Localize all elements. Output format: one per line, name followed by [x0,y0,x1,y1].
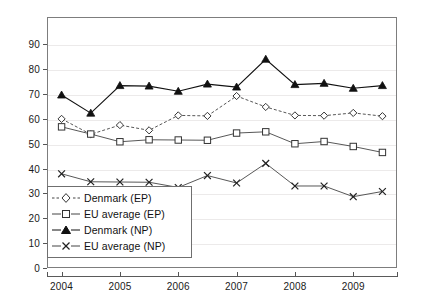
y-tick-mark [43,69,47,70]
y-tick-label: 70 [28,89,40,100]
y-tick-mark [43,44,47,45]
y-tick-mark [43,144,47,145]
y-tick-label: 90 [28,39,40,50]
y-tick-label: 20 [28,213,40,224]
y-tick-label: 40 [28,163,40,174]
y-tick-label: 50 [28,138,40,149]
y-tick-label: 30 [28,188,40,199]
x-tick-label: 2004 [50,281,73,292]
legend-marker-x-icon [51,239,81,253]
y-tick-mark [43,268,47,269]
y-tick-mark [43,169,47,170]
legend-label: Denmark (EP) [81,192,152,204]
gridline [48,145,396,146]
legend-marker-diamond-icon [51,191,81,205]
x-tick-label: 2008 [283,281,306,292]
y-tick-label: 60 [28,113,40,124]
gridline [48,170,396,171]
y-tick-label: 0 [34,263,40,274]
line-chart: 0102030405060708090 20042005200620072008… [0,0,421,300]
x-tick-label: 2005 [108,281,131,292]
y-tick-label: 80 [28,64,40,75]
y-tick-mark [43,119,47,120]
x-tick-label: 2006 [167,281,190,292]
x-tick-mark [397,272,398,277]
y-tick-mark [43,94,47,95]
legend-item-eu-average-ep: EU average (EP) [51,206,187,222]
x-tick-label: 2009 [342,281,365,292]
y-tick-label: 10 [28,238,40,249]
legend-item-denmark-ep: Denmark (EP) [51,190,187,206]
legend-label: Denmark (NP) [81,224,152,236]
legend-label: EU average (NP) [81,240,165,252]
legend-item-eu-average-np: EU average (NP) [51,238,187,254]
legend: Denmark (EP) EU average (EP) Denmark (NP… [47,186,192,258]
gridline [48,120,396,121]
x-axis-line [47,276,397,277]
legend-label: EU average (EP) [81,208,165,220]
gridline [48,70,396,71]
gridline [48,45,396,46]
legend-marker-triangle-icon [51,223,81,237]
gridline [48,95,396,96]
legend-item-denmark-np: Denmark (NP) [51,222,187,238]
legend-marker-square-icon [51,207,81,221]
x-tick-label: 2007 [225,281,248,292]
